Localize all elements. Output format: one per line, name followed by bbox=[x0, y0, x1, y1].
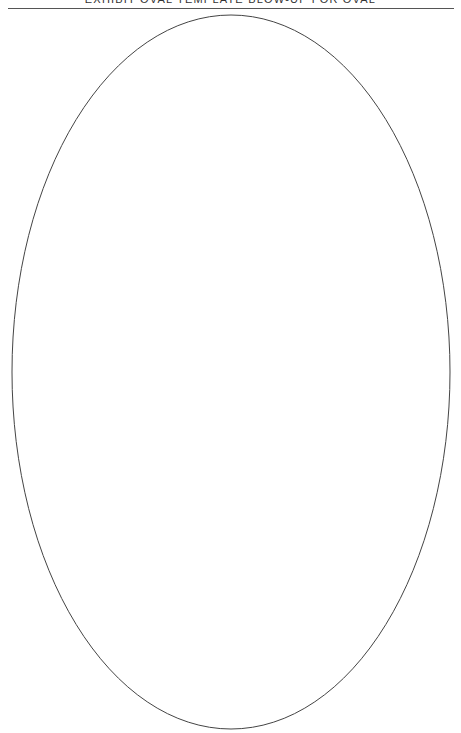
oval-template bbox=[0, 0, 461, 733]
oval-outline bbox=[12, 15, 450, 729]
